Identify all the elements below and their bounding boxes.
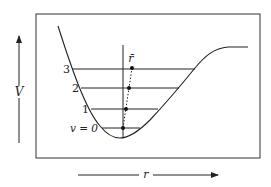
mean-r-dot-0 bbox=[121, 126, 125, 130]
level-label-2: 2 bbox=[72, 82, 79, 95]
plot-frame bbox=[36, 14, 260, 158]
v-axis-label: V bbox=[15, 85, 25, 99]
mean-r-dot-3 bbox=[130, 66, 134, 70]
r-axis-label: r bbox=[143, 168, 149, 181]
level-label-3: 3 bbox=[63, 63, 70, 76]
mean-r-label: r̄ bbox=[128, 52, 134, 65]
level-label-1: 1 bbox=[82, 103, 89, 116]
mean-r-dot-1 bbox=[124, 107, 128, 111]
mean-r-dot-2 bbox=[127, 86, 131, 90]
potential-energy-diagram: V r r̄ v = 0 1 2 3 bbox=[0, 0, 271, 187]
level-label-0: v = 0 bbox=[70, 122, 98, 134]
mean-r-dotted-line bbox=[123, 68, 132, 128]
